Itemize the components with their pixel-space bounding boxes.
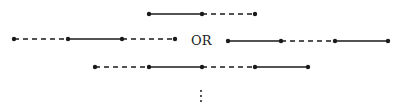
node-dot (93, 65, 97, 69)
node-dot (386, 39, 390, 43)
node-dot (147, 12, 151, 16)
node-dot (120, 37, 124, 41)
vertical-ellipsis-icon (200, 90, 202, 102)
chain-row-2-right (226, 39, 390, 43)
node-dot (200, 12, 204, 16)
chain-row-2-left (12, 37, 177, 41)
node-dot (306, 65, 310, 69)
node-dot (66, 37, 70, 41)
node-dot (333, 39, 337, 43)
chain-row-3 (93, 65, 310, 69)
node-dot (253, 65, 257, 69)
node-dot (226, 39, 230, 43)
node-dot (200, 65, 204, 69)
node-dot (279, 39, 283, 43)
node-dot (253, 12, 257, 16)
interval-diagram: OR (0, 0, 402, 108)
node-dot (147, 65, 151, 69)
chain-row-1 (147, 12, 257, 16)
node-dot (173, 37, 177, 41)
or-separator-label: OR (191, 33, 213, 48)
node-dot (12, 37, 16, 41)
